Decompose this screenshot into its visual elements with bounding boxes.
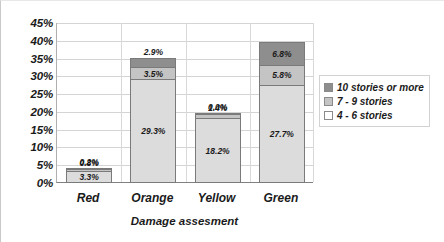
vertical-gridline [121,23,122,182]
chart-container: 45%40%35%30%25%20%15%10%5%0% 0.2%0.8%3.3… [0,0,444,242]
y-axis-tick-label: 40% [5,35,53,47]
bar-segment[interactable]: 5.8% [259,65,305,86]
y-axis-tick-label: 25% [5,88,53,100]
bar-stack: 2.9%3.5%29.3% [130,58,176,182]
y-axis-tick-label: 15% [5,124,53,136]
y-axis: 45%40%35%30%25%20%15%10%5%0% [1,23,53,183]
vertical-gridline [186,23,187,182]
bar-segment-label: 0.8% [79,158,98,168]
bar-stack: 0.0%1.4%18.2% [195,113,241,182]
bar-segment[interactable]: 6.8% [259,42,305,66]
vertical-gridline [313,23,314,182]
bar-segment-label: 2.9% [144,47,163,57]
bar-segment-label: 29.3% [141,126,165,136]
y-axis-tick-label: 35% [5,53,53,65]
chart-legend: 10 stories or more7 - 9 stories4 - 6 sto… [319,75,430,127]
y-axis-tick-label: 45% [5,17,53,29]
legend-swatch-icon [324,111,333,120]
x-axis-title: Damage assesment [56,215,313,227]
bar-segment-label: 3.3% [79,172,98,182]
y-axis-tick-label: 5% [5,159,53,171]
x-axis-tick-label: Green [236,191,326,205]
bar-segment-label: 5.8% [272,70,291,80]
legend-swatch-icon [324,83,333,92]
bar-stack: 0.2%0.8%3.3% [66,168,112,182]
bar-segment[interactable]: 29.3% [130,79,176,183]
legend-label: 7 - 9 stories [337,96,393,107]
bar-segment[interactable]: 27.7% [259,85,305,183]
y-axis-tick-label: 30% [5,70,53,82]
legend-item[interactable]: 10 stories or more [324,80,424,94]
bar-segment-label: 1.4% [208,103,227,113]
legend-item[interactable]: 7 - 9 stories [324,94,424,108]
y-axis-tick-label: 0% [5,177,53,189]
y-axis-tick-label: 20% [5,106,53,118]
bar-segment-label: 3.5% [144,69,163,79]
bar-segment-label: 18.2% [206,146,230,156]
legend-item[interactable]: 4 - 6 stories [324,108,424,122]
bar-stack: 6.8%5.8%27.7% [259,42,305,182]
y-axis-tick-label: 10% [5,141,53,153]
bar-segment-label: 6.8% [272,49,291,59]
bar-segment-label: 27.7% [270,129,294,139]
plot-area: 0.2%0.8%3.3%2.9%3.5%29.3%0.0%1.4%18.2%6.… [56,23,313,183]
bar-segment[interactable]: 18.2% [195,118,241,183]
vertical-gridline [250,23,251,182]
legend-label: 4 - 6 stories [337,110,393,121]
legend-swatch-icon [324,97,333,106]
legend-label: 10 stories or more [337,82,424,93]
bar-segment[interactable]: 3.3% [66,171,112,183]
